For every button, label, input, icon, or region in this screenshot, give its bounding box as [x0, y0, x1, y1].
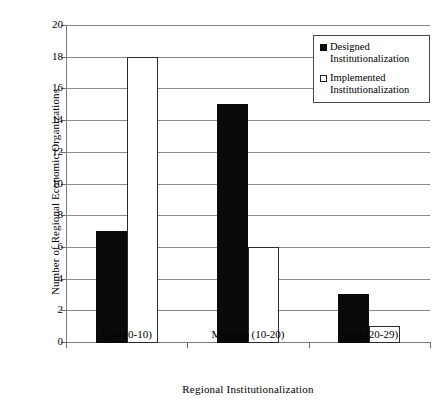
x-tick-label: Medium (10-20)	[187, 328, 308, 340]
x-axis-title: Regional Institutionalization	[66, 383, 430, 395]
legend-filled-square-icon	[320, 44, 327, 51]
y-tick-label: 16	[33, 82, 63, 93]
x-tick-label: Low (0-10)	[66, 328, 187, 340]
x-tick-mark	[66, 342, 67, 348]
bar	[127, 57, 158, 343]
bar-chart-figure: Number of Regional Economic Organization…	[0, 0, 445, 405]
legend-entry-designed: Designed Institutionalization	[320, 41, 423, 65]
gridline	[66, 152, 430, 153]
legend-entry-implemented: Implemented Institutionalization	[320, 72, 423, 96]
bar	[217, 104, 248, 343]
y-tick-label: 14	[33, 114, 63, 125]
bar	[96, 231, 127, 343]
x-tick-mark	[187, 342, 188, 348]
y-tick-label: 10	[33, 178, 63, 189]
legend-label-implemented: Implemented Institutionalization	[330, 72, 409, 96]
y-tick-label: 18	[33, 51, 63, 62]
y-tick-label: 2	[33, 304, 63, 315]
x-tick-mark	[430, 342, 431, 348]
x-tick-mark	[309, 342, 310, 348]
y-tick-label: 8	[33, 209, 63, 220]
y-tick-label: 0	[33, 336, 63, 347]
y-tick-label: 6	[33, 241, 63, 252]
gridline	[66, 25, 430, 26]
gridline	[66, 184, 430, 185]
gridline	[66, 215, 430, 216]
legend-label-designed: Designed Institutionalization	[330, 41, 409, 65]
chart-legend: Designed Institutionalization Implemente…	[313, 35, 430, 103]
y-tick-label: 20	[33, 19, 63, 30]
legend-open-square-icon	[320, 75, 327, 82]
x-tick-label: High (20-29)	[309, 328, 430, 340]
y-tick-label: 4	[33, 273, 63, 284]
gridline	[66, 120, 430, 121]
y-tick-label: 12	[33, 146, 63, 157]
